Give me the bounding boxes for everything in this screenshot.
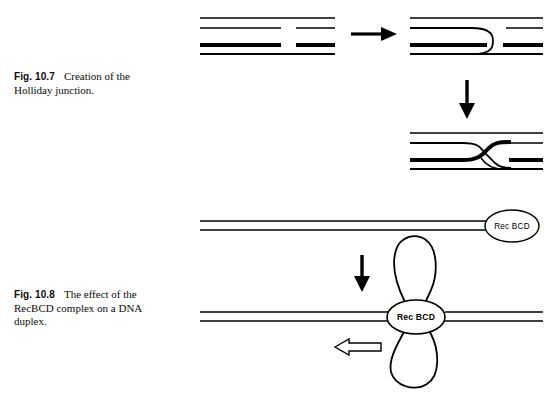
figure-caption-text-10-8-line2: RecBCD complex on a DNA xyxy=(14,302,142,314)
figure-caption-text-10-7-line1: Creation of the xyxy=(64,70,130,82)
figure-artwork-10-7 xyxy=(195,5,547,195)
figure-caption-text-10-8-line3: duplex. xyxy=(14,315,47,327)
panel-holliday-junction xyxy=(410,133,543,169)
figure-number-10-7: Fig. 10.7 xyxy=(14,71,55,82)
figure-artwork-10-8: Rec BCD Rec BCD xyxy=(195,200,547,396)
panel-recbcd-looped-duplex: Rec BCD xyxy=(200,236,543,387)
panel-parental-duplexes xyxy=(200,18,335,54)
holliday-thick-crossing-strand xyxy=(410,142,511,160)
ssdna-loop-upper xyxy=(394,236,436,310)
figure-caption-text-10-7-line2: Holliday junction. xyxy=(14,84,94,96)
invasion-crossing-thin-strand xyxy=(410,28,493,54)
figure-page: Fig. 10.7Creation of the Holliday juncti… xyxy=(0,0,547,398)
panel-single-strand-invasion xyxy=(410,18,543,54)
horizontal-arrow-icon xyxy=(351,27,397,41)
recbcd-label-bottom: Rec BCD xyxy=(397,312,435,322)
holliday-thin-crossing-strand xyxy=(410,143,511,168)
figure-caption-10-8: Fig. 10.8The effect of the RecBCD comple… xyxy=(14,288,189,329)
panel-recbcd-bound-duplex: Rec BCD xyxy=(200,210,539,242)
figure-caption-text-10-8-line1: The effect of the xyxy=(64,288,137,300)
recbcd-label-top: Rec BCD xyxy=(494,222,530,231)
figure-caption-10-7: Fig. 10.7Creation of the Holliday juncti… xyxy=(14,70,189,97)
vertical-arrow-icon xyxy=(459,80,475,119)
translocation-arrow-icon xyxy=(335,339,381,355)
figure-number-10-8: Fig. 10.8 xyxy=(14,289,55,300)
vertical-arrow-icon-2 xyxy=(354,255,370,292)
